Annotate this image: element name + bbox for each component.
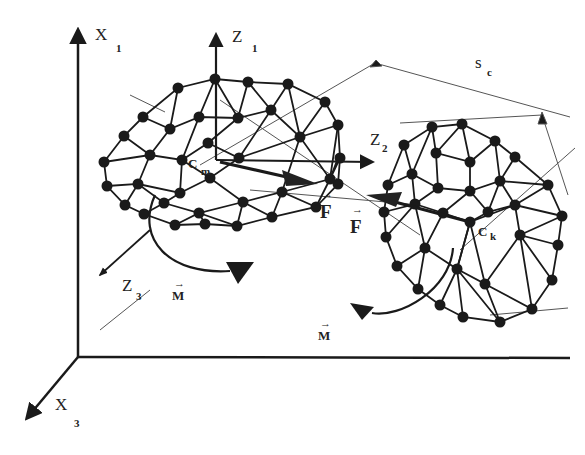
- moment-on-m-head: [226, 262, 254, 284]
- moment-k-vec-arrow: →: [320, 317, 331, 329]
- z3-axis: [100, 230, 150, 275]
- center-m-label: C: [188, 156, 197, 171]
- moment-k-label: M: [318, 328, 330, 343]
- moment-m-label: M: [172, 288, 184, 303]
- force-m-label: F: [320, 201, 332, 222]
- contact-surface-sub: c: [487, 66, 492, 78]
- force-k-label: F: [350, 216, 362, 237]
- center-k-sub: k: [490, 230, 497, 242]
- z2-sub: 2: [382, 142, 388, 154]
- particle-contact-diagram: X 1 X 3 Z 1 Z 2 Z 3 C m C k F → F → M → …: [0, 0, 585, 455]
- x1-label: X: [95, 25, 107, 44]
- force-m-vec-arrow: →: [322, 188, 333, 200]
- moment-on-k-head: [350, 303, 374, 320]
- x3-sub: 3: [74, 417, 80, 429]
- z2-label: Z: [370, 130, 380, 149]
- contact-surface-label: s: [475, 53, 482, 72]
- force-on-k-head: [366, 192, 402, 207]
- x3-label: X: [55, 395, 67, 414]
- x3-axis: [27, 357, 78, 418]
- z3-sub: 3: [136, 290, 142, 302]
- force-on-m-head: [282, 170, 318, 186]
- mesh-particle-k-nodes: [379, 119, 568, 328]
- force-k-vec-arrow: →: [352, 203, 363, 215]
- center-k-label: C: [478, 224, 487, 239]
- z3-label: Z: [122, 276, 132, 295]
- labels: X 1 X 3 Z 1 Z 2 Z 3 C m C k F → F → M → …: [55, 25, 497, 429]
- x1-sub: 1: [116, 42, 122, 54]
- z1-label: Z: [232, 27, 242, 46]
- x2-axis: [78, 357, 570, 358]
- center-m-sub: m: [201, 165, 210, 177]
- z1-sub: 1: [252, 42, 258, 54]
- moment-m-vec-arrow: →: [174, 277, 185, 289]
